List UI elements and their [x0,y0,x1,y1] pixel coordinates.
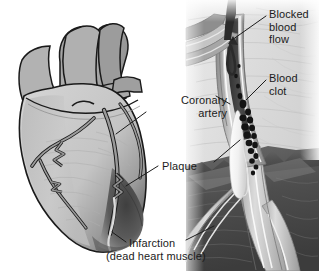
label-blood-clot: Blood clot [269,72,298,97]
label-infarction: Infarction [129,237,175,250]
label-plaque: Plaque [162,160,197,173]
label-blocked-blood-flow: Blocked blood flow [269,8,309,46]
panel-left-fade [182,0,204,271]
anatomy-figure: Blocked blood flow Blood clot Coronary a… [0,0,319,271]
vena-cava-branch-2 [112,77,142,94]
label-infarction-sub: (dead heart muscle) [106,250,206,263]
label-coronary-artery: Coronary artery [149,94,227,119]
